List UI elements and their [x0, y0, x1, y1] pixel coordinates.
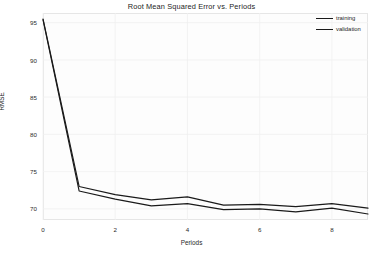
y-axis-label: RMSE: [0, 92, 5, 110]
chart-title: Root Mean Squared Error vs. Periods: [0, 2, 383, 11]
y-tick-label: 85: [11, 94, 37, 101]
chart-figure: Root Mean Squared Error vs. Periods 7075…: [0, 0, 383, 258]
legend-label-training: training: [336, 15, 355, 22]
x-axis-label: Periods: [0, 239, 383, 246]
series-lines: [43, 13, 368, 220]
y-tick-label: 75: [11, 168, 37, 175]
x-tick-label: 2: [105, 226, 125, 233]
x-tick-label: 6: [250, 226, 270, 233]
plot-area: [43, 13, 368, 220]
y-tick-label: 90: [11, 57, 37, 64]
x-tick-label: 4: [177, 226, 197, 233]
series-line-validation: [43, 19, 368, 208]
y-tick-label: 95: [11, 19, 37, 26]
y-tick-label: 70: [11, 205, 37, 212]
series-line-training: [43, 20, 368, 214]
x-tick-label: 8: [322, 226, 342, 233]
legend-item-training[interactable]: training: [316, 14, 355, 23]
legend-swatch-training: [316, 18, 333, 19]
y-tick-label: 80: [11, 131, 37, 138]
legend-swatch-validation: [316, 29, 333, 30]
chart-legend: trainingvalidation: [316, 14, 380, 38]
x-tick-label: 0: [33, 226, 53, 233]
legend-label-validation: validation: [336, 26, 361, 33]
legend-item-validation[interactable]: validation: [316, 25, 361, 34]
